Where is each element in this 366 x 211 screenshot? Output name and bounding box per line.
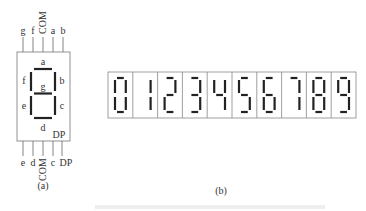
pin-label-top-1: f (31, 25, 35, 36)
pin-label-top-4: b (61, 25, 66, 36)
segment-label-dp: DP (53, 129, 66, 140)
segment-label-a: a (41, 56, 46, 67)
pin-label-bottom-3: c (51, 157, 56, 168)
pin-label-bottom-1: d (31, 157, 36, 168)
segment-label-d: d (41, 122, 46, 133)
panel-b-digits: (b) (108, 72, 356, 197)
pin-label-bottom-0: e (21, 157, 26, 168)
figure-caption-faint (95, 205, 325, 209)
caption-a: (a) (37, 180, 48, 192)
seven-segment-figure: g f COM a b a b c d e f g DP (0, 0, 366, 211)
segment-label-g: g (41, 81, 46, 92)
bottom-pins (23, 141, 62, 156)
pin-label-top-3: a (51, 25, 56, 36)
segment-label-c: c (60, 100, 65, 111)
pin-label-bottom-2: COM (37, 158, 48, 181)
top-pins (23, 37, 63, 52)
segment-label-b: b (60, 75, 65, 86)
caption-b: (b) (215, 185, 227, 197)
segment-label-e: e (22, 100, 27, 111)
pin-label-bottom-4: DP (60, 157, 73, 168)
pin-label-top-0: g (21, 25, 26, 36)
panel-a-pinout: g f COM a b a b c d e f g DP (17, 11, 73, 192)
pin-label-top-2: COM (37, 11, 48, 34)
